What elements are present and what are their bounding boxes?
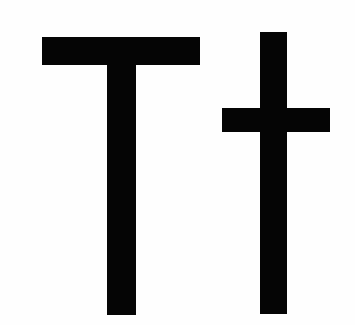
lowercase-t-stem [260, 32, 287, 314]
glyph-label: Tt [0, 0, 1, 1]
lowercase-t-crossbar [222, 108, 330, 132]
text-typography-icon: Tt [0, 0, 355, 325]
uppercase-t-stem [107, 64, 136, 315]
uppercase-t-crossbar [42, 37, 200, 65]
